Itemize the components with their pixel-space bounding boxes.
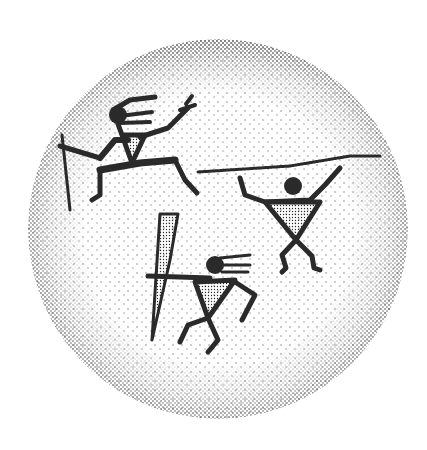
illustration: Three petroglyph-style figures: a leapin… bbox=[0, 0, 427, 450]
stipple-artwork bbox=[0, 0, 427, 450]
stippled-circle bbox=[0, 39, 427, 419]
